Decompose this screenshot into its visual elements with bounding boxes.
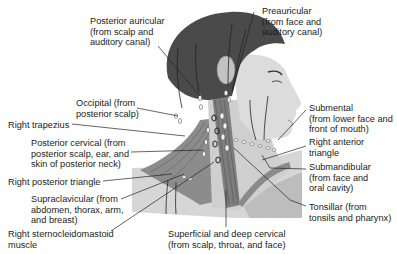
label-submental: Submental (from lower face and front of … [309,103,393,135]
label-posterior-cervical: Posterior cervical (from posterior scalp… [31,138,129,170]
label-right-posterior-triangle: Right posterior triangle [8,177,100,188]
label-superficial-deep-cervical: Superficial and deep cervical (from scal… [168,229,285,250]
label-right-sternocleidomastoid: Right sternocleidomastoid muscle [8,229,114,250]
label-posterior-auricular: Posterior auricular (from scalp and audi… [90,16,165,48]
label-submandibular: Submandibular (from face and oral cavity… [309,162,371,194]
label-right-anterior-triangle: Right anterior triangle [309,137,364,158]
label-preauricular: Preauricular (from face and auditory can… [262,6,322,38]
label-right-trapezius: Right trapezius [8,120,69,131]
label-tonsillar: Tonsillar (from tonsils and pharynx) [309,202,391,223]
ear [217,56,235,84]
label-supraclavicular: Supraclavicular (from abdomen, thorax, a… [31,194,123,226]
label-occipital: Occipital (from posterior scalp) [76,98,139,119]
